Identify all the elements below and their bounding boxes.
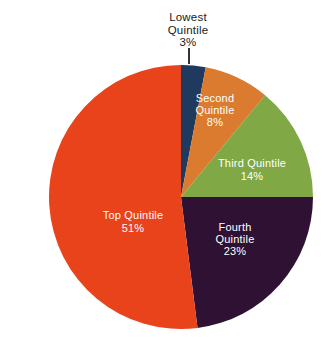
label-second-line2: Quintile [175, 104, 255, 116]
label-lowest-line1: Lowest [148, 11, 228, 24]
label-lowest-line2: Quintile [148, 24, 228, 37]
label-second-line3: 8% [175, 116, 255, 128]
label-fourth-line2: Quintile [195, 233, 275, 245]
label-third-quintile: Third Quintile 14% [197, 157, 307, 183]
label-top-line1: Top Quintile [83, 209, 183, 222]
label-lowest-quintile: Lowest Quintile 3% [148, 11, 228, 49]
label-top-line2: 51% [83, 222, 183, 235]
label-second-line1: Second [175, 92, 255, 104]
label-second-quintile: Second Quintile 8% [175, 92, 255, 128]
quintile-pie-chart: Lowest Quintile 3% Second Quintile 8% Th… [0, 0, 324, 345]
label-third-line1: Third Quintile [197, 157, 307, 170]
label-lowest-line3: 3% [148, 36, 228, 49]
label-fourth-quintile: Fourth Quintile 23% [195, 221, 275, 257]
label-fourth-line3: 23% [195, 245, 275, 257]
label-third-line2: 14% [197, 170, 307, 183]
pie-slice-fourth-quintile [181, 197, 313, 328]
label-top-quintile: Top Quintile 51% [83, 209, 183, 235]
label-fourth-line1: Fourth [195, 221, 275, 233]
leader-line-lowest-quintile [188, 48, 190, 64]
